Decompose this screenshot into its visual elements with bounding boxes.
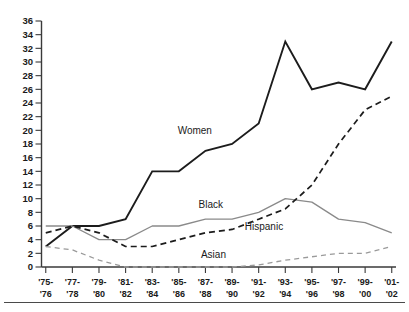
chart-background [0, 0, 409, 312]
x-tick-label-bottom: '02 [386, 289, 398, 299]
y-tick-label: 6 [28, 220, 33, 231]
x-tick-label-bottom: '86 [173, 289, 185, 299]
x-tick-label-bottom: '88 [199, 289, 211, 299]
x-tick-label-bottom: '92 [253, 289, 265, 299]
y-tick-label: 34 [22, 29, 33, 40]
y-tick-label: 0 [28, 261, 33, 272]
y-tick-label: 18 [22, 138, 33, 149]
x-tick-label-bottom: '94 [279, 289, 291, 299]
y-tick-label: 4 [28, 234, 34, 245]
x-tick-label-top: '01- [384, 277, 399, 287]
y-tick-label: 28 [22, 70, 33, 81]
y-tick-label: 14 [22, 166, 33, 177]
x-tick-label-top: '79- [91, 277, 106, 287]
y-tick-label: 32 [22, 43, 33, 54]
y-tick-label: 24 [22, 97, 33, 108]
x-tick-label-top: '89- [224, 277, 239, 287]
y-tick-label: 8 [28, 207, 33, 218]
x-tick-label-top: '93- [278, 277, 293, 287]
x-tick-label-top: '83- [145, 277, 160, 287]
chart-container: 024681012141618202224262830323436 '75-'7… [0, 0, 409, 312]
series-label-hispanic: Hispanic [245, 221, 283, 232]
y-tick-label: 10 [22, 193, 33, 204]
y-tick-label: 12 [22, 179, 33, 190]
x-tick-label-bottom: '90 [226, 289, 238, 299]
y-tick-label: 30 [22, 56, 33, 67]
x-tick-label-top: '97- [331, 277, 346, 287]
series-label-black: Black [199, 199, 224, 210]
x-tick-label-bottom: '96 [306, 289, 318, 299]
x-tick-label-top: '75- [38, 277, 53, 287]
x-tick-label-top: '99- [358, 277, 373, 287]
x-tick-label-bottom: '78 [66, 289, 78, 299]
y-tick-label: 2 [28, 248, 33, 259]
x-tick-label-bottom: '98 [332, 289, 344, 299]
y-tick-label: 22 [22, 111, 33, 122]
series-label-asian: Asian [201, 249, 226, 260]
x-tick-label-top: '77- [65, 277, 80, 287]
x-tick-label-top: '85- [171, 277, 186, 287]
x-tick-label-bottom: '00 [359, 289, 371, 299]
x-tick-label-top: '95- [304, 277, 319, 287]
x-tick-label-bottom: '84 [146, 289, 158, 299]
y-tick-label: 26 [22, 84, 33, 95]
series-label-women: Women [178, 125, 212, 136]
x-tick-label-bottom: '82 [120, 289, 132, 299]
x-tick-label-bottom: '80 [93, 289, 105, 299]
y-tick-label: 16 [22, 152, 33, 163]
x-tick-label-top: '87- [198, 277, 213, 287]
x-tick-label-top: '81- [118, 277, 133, 287]
y-tick-label: 36 [22, 15, 33, 26]
x-tick-label-top: '91- [251, 277, 266, 287]
line-chart: 024681012141618202224262830323436 '75-'7… [0, 0, 409, 312]
x-tick-label-bottom: '76 [40, 289, 52, 299]
y-tick-label: 20 [22, 125, 33, 136]
